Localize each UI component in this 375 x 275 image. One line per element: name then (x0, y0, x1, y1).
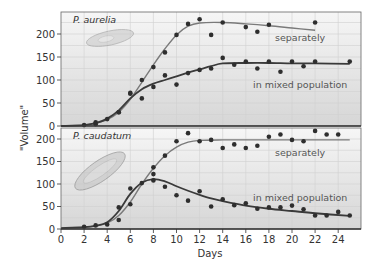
mixed-population-data-point (163, 184, 168, 189)
x-tick-label: 20 (286, 234, 299, 245)
mixed-population-data-point (267, 59, 272, 64)
top-panel-y-axis: 050100150200 (36, 29, 61, 132)
separately-data-point (174, 33, 179, 38)
x-tick-label: 6 (127, 234, 133, 245)
separately-data-point (313, 20, 318, 25)
separately-data-point (209, 138, 214, 143)
separately-data-point (336, 132, 341, 137)
y-tick-label: 100 (36, 75, 55, 86)
separately-data-point (105, 222, 110, 227)
mixed-population-data-point (278, 69, 283, 74)
separately-data-point (267, 23, 272, 28)
y-tick-label: 50 (42, 201, 55, 212)
y-tick-label: 50 (42, 98, 55, 109)
mixed-population-data-point (116, 205, 121, 210)
x-axis: 024681012141618202224 (58, 229, 345, 245)
y-tick-label: 200 (36, 29, 55, 40)
separately-data-point (267, 134, 272, 139)
separately-data-point (151, 65, 156, 70)
top-mixed-label: in mixed population (253, 79, 347, 90)
separately-data-point (197, 17, 202, 22)
mixed-population-data-point (220, 56, 225, 61)
mixed-population-data-point (278, 205, 283, 210)
mixed-population-data-point (220, 197, 225, 202)
separately-data-point (116, 218, 121, 223)
x-tick-label: 10 (170, 234, 183, 245)
mixed-population-data-point (140, 96, 145, 101)
x-tick-label: 0 (58, 234, 64, 245)
mixed-population-data-point (255, 66, 260, 71)
y-tick-label: 150 (36, 156, 55, 167)
mixed-population-data-point (336, 210, 341, 215)
separately-data-point (324, 132, 329, 137)
y-tick-label: 150 (36, 52, 55, 63)
separately-data-point (163, 50, 168, 55)
mixed-population-data-point (116, 110, 121, 115)
mixed-population-data-point (244, 59, 249, 64)
mixed-population-data-point (301, 207, 306, 212)
separately-data-point (128, 202, 133, 207)
population-growth-chart: 050100150200 050100150200 02468101214161… (0, 0, 375, 275)
mixed-population-data-point (267, 205, 272, 210)
separately-data-point (244, 146, 249, 151)
separately-data-point (255, 143, 260, 148)
mixed-population-data-point (290, 203, 295, 208)
mixed-population-data-point (244, 201, 249, 206)
separately-data-point (93, 223, 98, 228)
separately-data-point (209, 33, 214, 38)
x-tick-label: 12 (193, 234, 206, 245)
bottom-panel-y-axis: 050100150200 (36, 134, 61, 235)
mixed-population-data-point (197, 68, 202, 73)
mixed-population-data-point (347, 213, 352, 218)
mixed-population-data-point (324, 213, 329, 218)
mixed-population-data-point (174, 193, 179, 198)
mixed-population-data-point (128, 92, 133, 97)
separately-data-point (278, 132, 283, 137)
top-separately-label: separately (275, 32, 326, 43)
mixed-population-data-point (313, 213, 318, 218)
mixed-population-data-point (151, 85, 156, 90)
top-panel-species-label: P. aurelia (73, 14, 116, 25)
separately-data-point (290, 138, 295, 143)
separately-data-point (313, 129, 318, 134)
separately-data-point (220, 146, 225, 151)
mixed-population-data-point (301, 64, 306, 69)
separately-data-point (244, 25, 249, 30)
separately-data-point (186, 22, 191, 27)
y-tick-label: 0 (49, 121, 55, 132)
mixed-population-data-point (209, 204, 214, 209)
mixed-population-data-point (174, 82, 179, 87)
mixed-population-data-point (313, 59, 318, 64)
separately-data-point (174, 139, 179, 144)
bottom-mixed-label: in mixed population (253, 192, 347, 203)
mixed-population-data-point (140, 181, 145, 186)
separately-data-point (197, 139, 202, 144)
bottom-panel-species-label: P. caudatum (73, 130, 131, 141)
y-axis-title: "Volume" (19, 105, 30, 151)
x-tick-label: 22 (309, 234, 322, 245)
x-tick-label: 2 (81, 234, 87, 245)
x-axis-title: Days (198, 248, 223, 259)
separately-data-point (220, 20, 225, 25)
mixed-population-data-point (163, 73, 168, 78)
separately-data-point (151, 165, 156, 170)
x-tick-label: 24 (332, 234, 345, 245)
mixed-population-data-point (128, 186, 133, 191)
mixed-population-data-point (232, 203, 237, 208)
mixed-population-data-point (151, 178, 156, 183)
mixed-population-data-point (290, 59, 295, 64)
y-tick-label: 100 (36, 179, 55, 190)
mixed-population-data-point (186, 71, 191, 76)
mixed-population-data-point (209, 66, 214, 71)
x-tick-label: 16 (239, 234, 252, 245)
separately-data-point (186, 131, 191, 136)
separately-data-point (232, 142, 237, 147)
mixed-population-data-point (186, 198, 191, 203)
x-tick-label: 8 (150, 234, 156, 245)
separately-data-point (301, 139, 306, 144)
separately-data-point (140, 78, 145, 83)
chart-canvas: 050100150200 050100150200 02468101214161… (0, 0, 375, 275)
mixed-population-data-point (197, 189, 202, 194)
mixed-population-data-point (347, 59, 352, 64)
x-tick-label: 18 (263, 234, 276, 245)
